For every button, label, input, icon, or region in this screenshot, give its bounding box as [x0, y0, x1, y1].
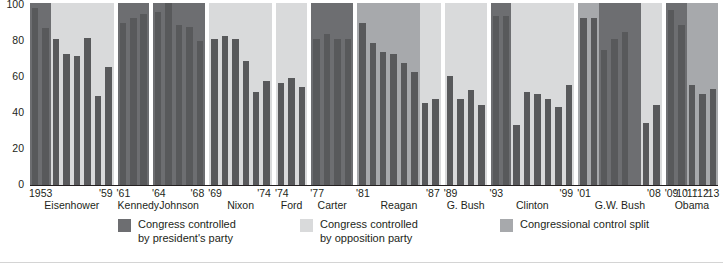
president-label-johnson: Johnson: [153, 199, 205, 212]
president-label-carter: Carter: [311, 199, 353, 212]
x-tick-99: '99: [559, 187, 573, 199]
legend-item-president-party: Congress controlled by president's party: [118, 218, 236, 245]
term-panel-eisenhower: [30, 3, 114, 185]
bar-group: [357, 3, 441, 185]
bar: [390, 54, 396, 185]
president-label-ford: Ford: [276, 199, 307, 212]
bar: [324, 34, 330, 185]
president-name-labels: EisenhowerKennedyJohnsonNixonFordCarterR…: [0, 199, 723, 213]
x-tick-1953: 1953: [29, 187, 52, 199]
bar: [278, 83, 284, 185]
bar: [668, 10, 674, 185]
bar: [222, 36, 228, 185]
bar-group: [491, 3, 575, 185]
bar: [243, 61, 249, 185]
bar: [186, 27, 192, 185]
bar-group: [311, 3, 353, 185]
term-panel-g-w-bush: [578, 3, 662, 185]
bar: [611, 39, 617, 185]
bar: [710, 89, 716, 185]
bar-group: [445, 3, 487, 185]
bar: [263, 81, 269, 185]
x-tick-13: '13: [706, 187, 720, 199]
term-panel-carter: [311, 3, 353, 185]
y-axis-label-80: 80: [12, 35, 24, 45]
president-label-g-w-bush: G.W. Bush: [578, 199, 662, 212]
bar: [313, 39, 319, 185]
bar: [478, 105, 484, 185]
bar: [545, 99, 551, 185]
bar: [503, 16, 509, 185]
bar: [689, 85, 695, 185]
term-panel-obama: [666, 3, 718, 185]
president-label-kennedy: Kennedy: [118, 199, 149, 212]
term-panel-reagan: [357, 3, 441, 185]
plot-area: [30, 3, 718, 185]
y-axis-label-60: 60: [12, 71, 24, 81]
bar: [653, 105, 659, 185]
bar: [411, 72, 417, 185]
x-tick-69: '69: [208, 187, 222, 199]
term-panel-clinton: [491, 3, 575, 185]
x-tick-61: '61: [117, 187, 131, 199]
bar: [524, 92, 530, 185]
bar: [555, 107, 561, 185]
x-tick-93: '93: [490, 187, 504, 199]
bar-group: [276, 3, 307, 185]
bar: [699, 94, 705, 185]
legend-swatch-president-party: [118, 219, 131, 232]
bar: [370, 43, 376, 185]
chart-legend: Congress controlled by president's party…: [0, 218, 723, 256]
bar: [53, 39, 59, 185]
bar: [105, 67, 111, 185]
x-tick-77: '77: [310, 187, 324, 199]
bar: [447, 76, 453, 185]
term-panel-nixon: [209, 3, 272, 185]
bar: [534, 94, 540, 185]
bar: [359, 23, 365, 185]
bar: [176, 25, 182, 185]
x-tick-81: '81: [356, 187, 370, 199]
bar: [42, 28, 48, 185]
bar: [63, 54, 69, 185]
bar: [211, 39, 217, 185]
bar-group: [153, 3, 205, 185]
legend-label-control-split: Congressional control split: [520, 218, 649, 232]
term-panel-ford: [276, 3, 307, 185]
bar: [432, 99, 438, 185]
legend-item-opposition-party: Congress controlled by opposition party: [300, 218, 418, 245]
bar-group: [578, 3, 662, 185]
x-tick-01: '01: [577, 187, 591, 199]
bar: [140, 14, 146, 185]
legend-swatch-opposition-party: [300, 219, 313, 232]
bar: [155, 12, 161, 185]
term-panel-johnson: [153, 3, 205, 185]
president-label-g-bush: G. Bush: [445, 199, 487, 212]
bar: [334, 39, 340, 185]
bar: [566, 85, 572, 185]
x-tick-89: '89: [444, 187, 458, 199]
x-tick-08: '08: [647, 187, 661, 199]
bar-group: [666, 3, 718, 185]
x-tick-87: '87: [426, 187, 440, 199]
president-label-reagan: Reagan: [357, 199, 441, 212]
bar: [74, 56, 80, 185]
bar: [422, 103, 428, 185]
bar: [232, 39, 238, 185]
president-label-nixon: Nixon: [209, 199, 272, 212]
bar: [580, 18, 586, 185]
bar: [643, 123, 649, 185]
bar: [299, 87, 305, 185]
legend-label-opposition-party: Congress controlled by opposition party: [320, 218, 418, 245]
bar: [130, 18, 136, 185]
president-label-clinton: Clinton: [491, 199, 575, 212]
y-axis-labels: 100 80 60 40 20 0: [0, 0, 28, 190]
bar: [601, 50, 607, 185]
presidential-success-bar-chart: 100 80 60 40 20 0 1953'59'61'64'68'69'74…: [0, 0, 723, 267]
bar: [622, 32, 628, 185]
term-panel-kennedy: [118, 3, 149, 185]
y-axis-label-100: 100: [6, 0, 24, 9]
bar: [120, 23, 126, 185]
bar: [84, 38, 90, 185]
legend-label-president-party: Congress controlled by president's party: [138, 218, 236, 245]
